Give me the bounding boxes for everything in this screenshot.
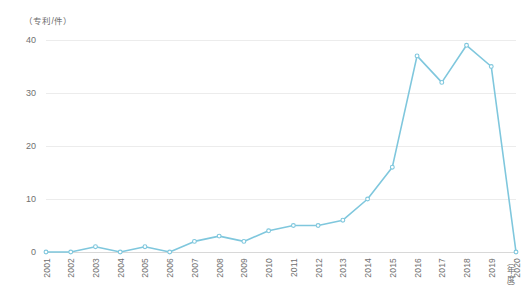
y-tick-label: 20 <box>14 141 36 151</box>
data-point-marker <box>242 240 246 244</box>
x-axis-unit-label: （年度） <box>504 258 515 291</box>
data-point-marker <box>44 250 48 254</box>
x-tick-label: 2015 <box>388 258 398 278</box>
x-tick-label: 2010 <box>264 258 274 278</box>
data-point-marker <box>168 250 172 254</box>
data-point-marker <box>291 224 295 228</box>
y-tick-label: 10 <box>14 194 36 204</box>
x-tick-label: 2005 <box>140 258 150 278</box>
data-point-marker <box>390 165 394 169</box>
data-point-marker <box>143 245 147 249</box>
x-tick-label: 2003 <box>91 258 101 278</box>
x-tick-label: 2006 <box>165 258 175 278</box>
data-point-marker <box>415 54 419 58</box>
x-tick-label: 2014 <box>363 258 373 278</box>
data-point-marker <box>69 250 73 254</box>
data-point-marker <box>118 250 122 254</box>
y-tick-label: 40 <box>14 35 36 45</box>
x-tick-label: 2007 <box>190 258 200 278</box>
data-point-marker <box>341 218 345 222</box>
x-tick-label: 2008 <box>215 258 225 278</box>
data-point-marker <box>465 43 469 47</box>
x-tick-label: 2018 <box>462 258 472 278</box>
data-point-marker <box>94 245 98 249</box>
x-tick-label: 2013 <box>338 258 348 278</box>
data-point-marker <box>193 240 197 244</box>
y-tick-label: 0 <box>14 247 36 257</box>
patent-trend-line-chart: （专利/件） 010203040 20012002200320042005200… <box>0 0 529 305</box>
x-tick-label: 2009 <box>239 258 249 278</box>
data-point-marker <box>316 224 320 228</box>
x-tick-label: 2019 <box>487 258 497 278</box>
data-point-marker <box>514 250 518 254</box>
x-tick-label: 2016 <box>413 258 423 278</box>
x-tick-label: 2004 <box>116 258 126 278</box>
series-line-patent-count <box>46 45 516 252</box>
data-point-marker <box>440 81 444 85</box>
data-point-marker <box>267 229 271 233</box>
x-tick-label: 2011 <box>289 258 299 277</box>
data-point-marker <box>489 65 493 69</box>
y-tick-label: 30 <box>14 88 36 98</box>
x-tick-label: 2012 <box>314 258 324 278</box>
data-point-marker <box>217 234 221 238</box>
data-point-marker <box>366 197 370 201</box>
x-tick-label: 2002 <box>66 258 76 278</box>
x-tick-label: 2017 <box>437 258 447 278</box>
x-tick-label: 2001 <box>42 258 52 278</box>
